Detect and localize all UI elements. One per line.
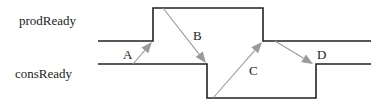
event-label-b: B: [193, 28, 202, 43]
event-label-a: A: [123, 47, 133, 62]
event-arrow-a: [133, 42, 152, 64]
event-arrow-d: [275, 41, 313, 64]
arrow-shaft: [275, 41, 304, 58]
timing-diagram: prodReady consReady A B C D: [0, 0, 387, 105]
event-label-c: C: [249, 63, 258, 78]
prodready-label: prodReady: [19, 13, 77, 28]
arrowhead-icon: [301, 54, 313, 64]
prodready-waveform: [98, 8, 371, 41]
event-arrows: [133, 8, 313, 98]
arrowhead-icon: [141, 42, 152, 53]
event-label-d: D: [317, 47, 326, 62]
consready-waveform: [98, 64, 371, 98]
consready-label: consReady: [15, 66, 73, 81]
arrow-shaft: [133, 50, 145, 64]
arrowhead-icon: [196, 52, 206, 63]
